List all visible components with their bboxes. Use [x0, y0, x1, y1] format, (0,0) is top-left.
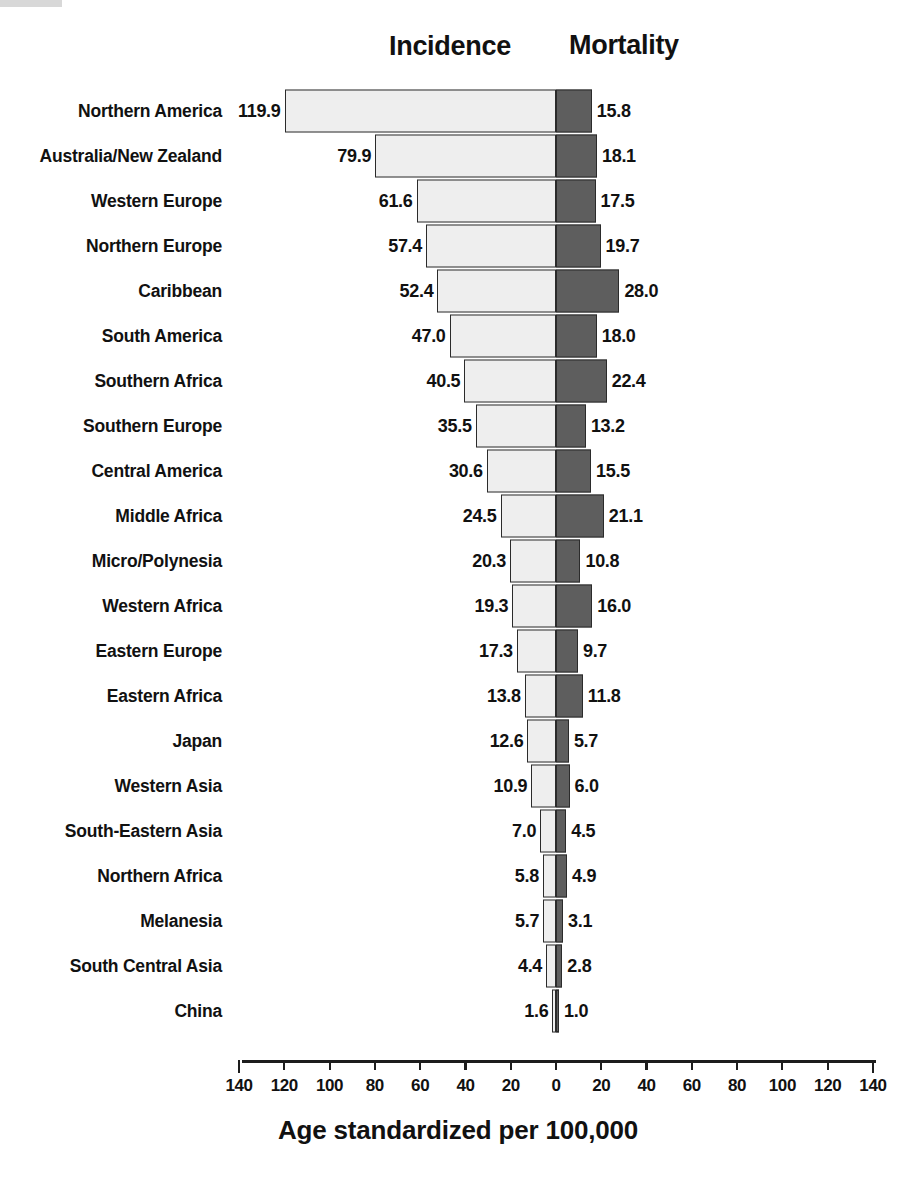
value-label-incidence: 119.9 — [238, 100, 281, 121]
bar-mortality — [556, 269, 619, 312]
x-axis-tick — [238, 1060, 240, 1073]
value-label-mortality: 2.8 — [567, 955, 591, 976]
bar-group: 35.513.2 — [0, 403, 916, 448]
value-label-incidence: 4.4 — [518, 955, 542, 976]
bar-incidence — [510, 539, 556, 582]
bar-group: 79.918.1 — [0, 133, 916, 178]
bar-incidence — [540, 809, 556, 852]
value-label-mortality: 6.0 — [575, 775, 599, 796]
bar-group: 57.419.7 — [0, 223, 916, 268]
x-axis-tick-label: 20 — [592, 1076, 610, 1096]
x-axis-tick-label: 40 — [637, 1076, 655, 1096]
value-label-mortality: 28.0 — [624, 280, 658, 301]
value-label-incidence: 47.0 — [412, 325, 446, 346]
bar-group: 13.811.8 — [0, 673, 916, 718]
bar-incidence — [450, 314, 556, 357]
chart-row: Micro/Polynesia20.310.8 — [0, 538, 916, 583]
bar-mortality — [556, 89, 592, 132]
x-axis-tick-label: 120 — [814, 1076, 841, 1096]
bar-mortality — [556, 719, 569, 762]
value-label-incidence: 24.5 — [463, 505, 497, 526]
bar-group: 1.61.0 — [0, 988, 916, 1033]
bar-incidence — [517, 629, 556, 672]
chart-row: Northern Europe57.419.7 — [0, 223, 916, 268]
bar-mortality — [556, 764, 570, 807]
x-axis-tick-label: 120 — [271, 1076, 298, 1096]
x-axis-tick — [781, 1060, 783, 1070]
x-axis-tick — [600, 1060, 602, 1070]
bar-incidence — [476, 404, 556, 447]
chart-row: Eastern Europe17.39.7 — [0, 628, 916, 673]
x-axis-tick — [872, 1060, 874, 1073]
chart-row: Japan12.65.7 — [0, 718, 916, 763]
bar-group: 4.42.8 — [0, 943, 916, 988]
column-header-incidence: Incidence — [389, 31, 511, 62]
bar-mortality — [556, 899, 563, 942]
chart-row: Western Asia10.96.0 — [0, 763, 916, 808]
bar-group: 10.96.0 — [0, 763, 916, 808]
x-axis-tick — [419, 1060, 421, 1070]
x-axis-tick — [510, 1060, 512, 1070]
chart-row: Australia/New Zealand79.918.1 — [0, 133, 916, 178]
bar-group: 19.316.0 — [0, 583, 916, 628]
value-label-mortality: 22.4 — [612, 370, 646, 391]
value-label-mortality: 16.0 — [597, 595, 631, 616]
x-axis-tick-label: 80 — [728, 1076, 746, 1096]
x-axis-tick — [283, 1060, 285, 1070]
x-axis-tick-label: 0 — [551, 1076, 560, 1096]
chart-root: Incidence Mortality Northern America119.… — [0, 0, 916, 1189]
bar-mortality — [556, 134, 597, 177]
bar-group: 52.428.0 — [0, 268, 916, 313]
axis-caption: Age standardized per 100,000 — [0, 1115, 916, 1146]
value-label-mortality: 19.7 — [606, 235, 640, 256]
bar-mortality — [556, 179, 596, 222]
bar-group: 61.617.5 — [0, 178, 916, 223]
chart-row: South America47.018.0 — [0, 313, 916, 358]
value-label-incidence: 17.3 — [479, 640, 513, 661]
value-label-incidence: 12.6 — [490, 730, 524, 751]
value-label-incidence: 5.8 — [515, 865, 539, 886]
x-axis-tick — [691, 1060, 693, 1070]
value-label-mortality: 18.1 — [602, 145, 636, 166]
bar-mortality — [556, 539, 580, 582]
bar-group: 7.04.5 — [0, 808, 916, 853]
bar-group: 47.018.0 — [0, 313, 916, 358]
x-axis-tick-label: 140 — [225, 1076, 252, 1096]
x-axis-tick — [374, 1060, 376, 1070]
value-label-mortality: 11.8 — [588, 685, 621, 706]
chart-row: South-Eastern Asia7.04.5 — [0, 808, 916, 853]
value-label-mortality: 4.5 — [571, 820, 595, 841]
value-label-incidence: 5.7 — [515, 910, 539, 931]
bar-group: 30.615.5 — [0, 448, 916, 493]
value-label-incidence: 61.6 — [379, 190, 413, 211]
chart-row: Central America30.615.5 — [0, 448, 916, 493]
chart-row: South Central Asia4.42.8 — [0, 943, 916, 988]
bar-incidence — [437, 269, 556, 312]
bar-incidence — [464, 359, 556, 402]
value-label-mortality: 18.0 — [602, 325, 636, 346]
value-label-mortality: 5.7 — [574, 730, 598, 751]
value-label-mortality: 15.8 — [597, 100, 631, 121]
x-axis-tick-label: 140 — [859, 1076, 886, 1096]
bar-incidence — [543, 854, 556, 897]
bar-incidence — [417, 179, 556, 222]
bar-mortality — [556, 224, 601, 267]
bar-mortality — [556, 314, 597, 357]
value-label-mortality: 15.5 — [596, 460, 630, 481]
value-label-incidence: 52.4 — [400, 280, 434, 301]
bar-mortality — [556, 584, 592, 627]
scan-artifact — [0, 0, 62, 7]
value-label-mortality: 9.7 — [583, 640, 607, 661]
value-label-incidence: 13.8 — [487, 685, 521, 706]
value-label-mortality: 1.0 — [564, 1000, 588, 1021]
value-label-incidence: 19.3 — [474, 595, 508, 616]
bar-incidence — [487, 449, 556, 492]
chart-row: Caribbean52.428.0 — [0, 268, 916, 313]
x-axis-tick-label: 20 — [502, 1076, 520, 1096]
column-header-mortality: Mortality — [569, 30, 679, 61]
bar-group: 5.84.9 — [0, 853, 916, 898]
chart-row: Southern Europe35.513.2 — [0, 403, 916, 448]
x-axis-tick — [464, 1060, 466, 1070]
bar-incidence — [546, 944, 556, 987]
bar-mortality — [556, 629, 578, 672]
